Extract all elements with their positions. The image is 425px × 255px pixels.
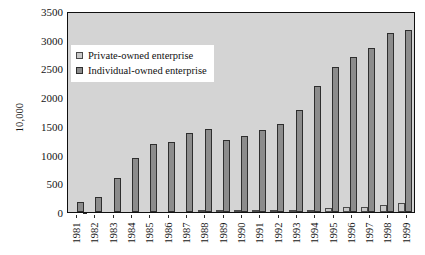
x-axis-tick-mark (351, 215, 352, 218)
bar (77, 202, 84, 213)
bar-group (377, 13, 395, 212)
x-axis-tick-mark (149, 215, 150, 218)
y-axis-tick-label: 3500 (20, 6, 63, 18)
y-axis-tick-label: 1500 (20, 121, 63, 133)
legend-swatch-icon (76, 52, 83, 59)
bars-container (68, 13, 414, 212)
bar-group (305, 13, 323, 212)
x-axis-tick-cell: 1992 (268, 215, 286, 255)
x-axis-tick-cell: 1985 (140, 215, 158, 255)
x-axis-tick-cell: 1981 (67, 215, 85, 255)
bar (150, 144, 157, 212)
bar (114, 178, 121, 212)
x-axis-tick-mark (223, 215, 224, 218)
x-axis-tick-label: 1999 (400, 223, 411, 244)
x-axis-tick-label: 1996 (345, 223, 356, 244)
legend-item: Private-owned enterprise (76, 48, 207, 63)
bar (234, 210, 241, 212)
x-axis-tick-cell: 1993 (287, 215, 305, 255)
bar-group (323, 13, 341, 212)
x-axis-tick-mark (131, 215, 132, 218)
bar (314, 86, 321, 212)
x-axis-tick-cell: 1997 (360, 215, 378, 255)
bar (387, 33, 394, 212)
x-axis-tick-mark (296, 215, 297, 218)
x-axis-tick-label: 1988 (199, 223, 210, 244)
bar-group (232, 13, 250, 212)
x-axis-tick-cell: 1989 (214, 215, 232, 255)
bar-chart: 10,000 0500100015002000250030003500 Priv… (0, 0, 425, 255)
x-axis-tick-labels: 1981198219831984198519861987198819891990… (67, 215, 415, 255)
bar (95, 197, 102, 213)
x-axis-tick-mark (314, 215, 315, 218)
y-axis-tick-label: 500 (20, 178, 63, 190)
x-axis-tick-mark (204, 215, 205, 218)
x-axis-tick-label: 1982 (89, 223, 100, 244)
bar (368, 48, 375, 212)
y-axis-tick-mark (83, 213, 87, 214)
bar-group (286, 13, 304, 212)
y-axis-tick-label: 3000 (20, 35, 63, 47)
x-axis-tick-mark (94, 215, 95, 218)
bar (380, 205, 387, 212)
bar (198, 210, 205, 212)
x-axis-tick-mark (186, 215, 187, 218)
x-axis-tick-label: 1983 (107, 223, 118, 244)
x-axis-tick-cell: 1995 (323, 215, 341, 255)
bar-group (123, 13, 141, 212)
x-axis-tick-cell: 1996 (342, 215, 360, 255)
x-axis-tick-mark (278, 215, 279, 218)
bar (361, 207, 368, 213)
x-axis-tick-cell: 1990 (232, 215, 250, 255)
x-axis-tick-label: 1998 (382, 223, 393, 244)
x-axis-tick-label: 1994 (309, 223, 320, 244)
x-axis-tick-mark (387, 215, 388, 218)
bar (223, 140, 230, 212)
x-axis-tick-cell: 1987 (177, 215, 195, 255)
y-axis-tick-labels: 0500100015002000250030003500 (20, 12, 63, 213)
legend-item: Individual-owned enterprise (76, 63, 207, 78)
chart-legend: Private-owned enterpriseIndividual-owned… (71, 45, 214, 82)
y-axis-tick-label: 2000 (20, 92, 63, 104)
x-axis-tick-label: 1985 (144, 223, 155, 244)
bar-group (250, 13, 268, 212)
x-axis-tick-label: 1997 (364, 223, 375, 244)
bar-group (141, 13, 159, 212)
x-axis-tick-label: 1987 (181, 223, 192, 244)
y-axis-tick-label: 1000 (20, 150, 63, 162)
bar-group (195, 13, 213, 212)
x-axis-tick-label: 1991 (254, 223, 265, 244)
bar-group (86, 13, 104, 212)
x-axis-tick-cell: 1984 (122, 215, 140, 255)
bar (332, 67, 339, 212)
bar-group (104, 13, 122, 212)
bar-group (159, 13, 177, 212)
bar-group (341, 13, 359, 212)
x-axis-tick-mark (369, 215, 370, 218)
x-axis-tick-mark (241, 215, 242, 218)
bar (186, 133, 193, 212)
bar (216, 210, 223, 212)
x-axis-tick-label: 1990 (235, 223, 246, 244)
bar (296, 110, 303, 212)
bar (252, 210, 259, 212)
x-axis-tick-label: 1986 (162, 223, 173, 244)
bar-group (177, 13, 195, 212)
x-axis-tick-cell: 1991 (250, 215, 268, 255)
bar (405, 30, 412, 212)
plot-area (67, 12, 415, 213)
x-axis-tick-label: 1984 (126, 223, 137, 244)
bar (132, 158, 139, 212)
bar (307, 210, 314, 212)
x-axis-tick-mark (76, 215, 77, 218)
legend-item-label: Private-owned enterprise (88, 48, 193, 63)
x-axis-tick-label: 1981 (71, 223, 82, 244)
x-axis-tick-mark (406, 215, 407, 218)
x-axis-tick-label: 1993 (290, 223, 301, 244)
x-axis-tick-cell: 1983 (104, 215, 122, 255)
x-axis-tick-cell: 1988 (195, 215, 213, 255)
x-axis-tick-cell: 1998 (378, 215, 396, 255)
bar (398, 203, 405, 212)
x-axis-tick-mark (259, 215, 260, 218)
bar-group (214, 13, 232, 212)
